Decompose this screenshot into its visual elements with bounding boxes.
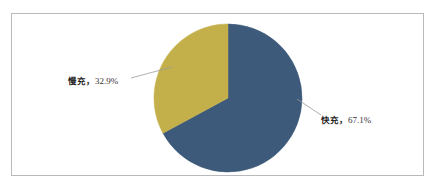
pie-chart-figure: 慢充，32.9% 快充，67.1% [0, 0, 438, 189]
pie-chart-graphic [0, 0, 438, 189]
pie-label-fast-charge: 快充，67.1% [321, 110, 371, 126]
pie-label-slow-charge-value: 32.9% [95, 76, 118, 86]
pie-label-fast-charge-name: 快充， [321, 115, 348, 125]
pie-label-slow-charge-name: 慢充， [68, 76, 95, 86]
pie-label-slow-charge: 慢充，32.9% [68, 71, 118, 87]
pie-label-fast-charge-value: 67.1% [348, 115, 371, 125]
